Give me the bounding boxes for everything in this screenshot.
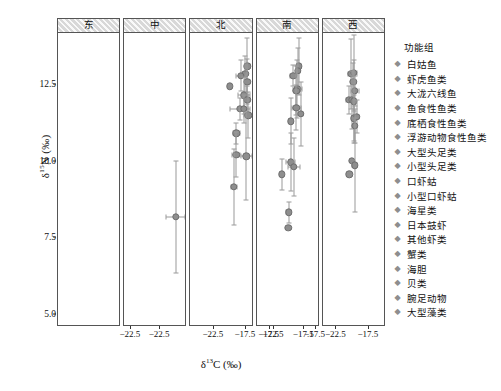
panel-x-axis: −22.5−17.5 [256,326,319,340]
error-bar-cap [296,48,301,49]
error-bar-cap [288,133,293,134]
facet-panel: 中−22.5−17.5 [123,18,186,340]
legend-item-label: 其他虾类 [407,232,447,246]
x-tick-label: −22.5 [202,329,223,339]
y-tick-label: 7.5 [20,232,56,242]
panel-x-axis: −22.5−17.5 [123,326,186,340]
error-bar-cap [185,215,186,220]
error-bar-cap [231,148,236,149]
legend-item[interactable]: ◆海星类 [392,203,501,218]
legend-item[interactable]: ◆大型头足类 [392,145,501,160]
error-bar-cap [288,191,293,192]
legend-item[interactable]: ◆白姑鱼 [392,57,501,72]
legend-item[interactable]: ◆其他虾类 [392,232,501,247]
legend-item-label: 大型头足类 [407,145,457,159]
error-bar-cap [294,66,299,67]
legend-item[interactable]: ◆口虾蛄 [392,174,501,189]
legend-item-label: 虾虎鱼类 [407,72,447,86]
panel-x-axis: −22.5−17.5 [322,326,385,340]
x-tick-label: −17.5 [357,329,378,339]
legend-item-label: 海胆 [407,262,427,276]
error-bar-cap [173,160,178,161]
legend-item[interactable]: ◆底栖食性鱼类 [392,115,501,130]
legend-item-label: 浮游动物食性鱼类 [407,130,487,144]
data-point [297,110,304,117]
error-bar-cap [238,60,243,61]
figure-container: δ15N (‰) 5.07.510.012.5 东−22.5−17.5中−22.… [0,0,501,391]
legend-items: ◆白姑鱼◆虾虎鱼类◆大泷六线鱼◆鱼食性鱼类◆底栖食性鱼类◆浮游动物食性鱼类◆大型… [392,57,501,320]
panel-plot-area [256,33,319,326]
error-bar-cap [301,87,302,92]
legend-item[interactable]: ◆虾虎鱼类 [392,72,501,87]
error-bar-cap [234,122,239,123]
legend-marker-icon: ◆ [392,119,403,127]
y-tick-label: 5.0 [20,309,56,319]
error-bar-cap [294,130,299,131]
panel-strip-label: 南 [256,18,319,33]
legend-item[interactable]: ◆鱼食性鱼类 [392,101,501,116]
error-bar-cap [296,37,301,38]
x-tick-label: −22.5 [263,329,284,339]
data-point [285,209,292,216]
y-axis: 5.07.510.012.5 [18,18,56,340]
error-bar-cap [243,55,248,56]
error-bar-cap [352,109,357,110]
facet-panel: 东−22.5−17.5 [57,18,120,340]
legend-item-label: 日本鼓虾 [407,218,447,232]
panel-x-axis: −22.5−17.5 [57,326,120,340]
error-bar-cap [245,58,250,59]
legend-item-label: 口虾蛄 [407,174,437,188]
data-point [244,78,251,85]
legend-item[interactable]: ◆大型藻类 [392,305,501,320]
error-bar-cap [279,189,284,190]
legend-marker-icon: ◆ [392,294,403,302]
error-bar-cap [288,164,289,169]
legend-item[interactable]: ◆海胆 [392,261,501,276]
y-tick-label: 10.0 [20,156,56,166]
error-bar-cap [352,212,357,213]
data-point [230,183,237,190]
error-bar-cap [352,118,357,119]
panel-strip-label: 北 [189,18,252,33]
data-point [278,171,285,178]
legend-item-label: 小型头足类 [407,159,457,173]
y-tick-mark [53,237,56,238]
legend-marker-icon: ◆ [392,148,403,156]
legend-marker-icon: ◆ [392,308,403,316]
legend-item-label: 贝类 [407,276,427,290]
legend-item-label: 大泷六线鱼 [407,86,457,100]
legend-item[interactable]: ◆大泷六线鱼 [392,86,501,101]
legend-marker-icon: ◆ [392,221,403,229]
error-bar-cap [234,131,239,132]
legend-item[interactable]: ◆贝类 [392,276,501,291]
legend: 功能组 ◆白姑鱼◆虾虎鱼类◆大泷六线鱼◆鱼食性鱼类◆底栖食性鱼类◆浮游动物食性鱼… [392,40,501,320]
legend-item[interactable]: ◆浮游动物食性鱼类 [392,130,501,145]
error-bar-cap [358,88,359,93]
error-bar-cap [295,60,300,61]
error-bar-cap [286,201,291,202]
error-bar-cap [298,81,303,82]
legend-item[interactable]: ◆小型口虾蛄 [392,188,501,203]
facet-panels: 东−22.5−17.5中−22.5−17.5北−22.5−17.5南−22.5−… [57,18,385,340]
error-bar-cap [242,95,247,96]
legend-marker-icon: ◆ [392,133,403,141]
legend-marker-icon: ◆ [392,177,403,185]
legend-item[interactable]: ◆小型头足类 [392,159,501,174]
panel-strip-label: 西 [322,18,385,33]
legend-item-label: 腕足动物 [407,291,447,305]
error-bar-cap [246,92,251,93]
legend-marker-icon: ◆ [392,104,403,112]
facet-panel: 北−22.5−17.5 [189,18,252,340]
legend-item[interactable]: ◆日本鼓虾 [392,218,501,233]
legend-marker-icon: ◆ [392,89,403,97]
legend-marker-icon: ◆ [392,206,403,214]
legend-item-label: 小型口虾蛄 [407,189,457,203]
legend-item[interactable]: ◆腕足动物 [392,291,501,306]
legend-item[interactable]: ◆蟹类 [392,247,501,262]
x-axis-label: δ13C (‰) [57,357,385,370]
panel-plot-area [189,33,252,326]
error-bar-cap [237,119,242,120]
legend-marker-icon: ◆ [392,235,403,243]
legend-marker-icon: ◆ [392,265,403,273]
data-point [243,152,250,159]
